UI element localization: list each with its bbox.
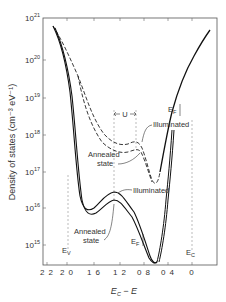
svg-text:0 4: 0 4 xyxy=(161,268,175,277)
svg-text:0 8: 0 8 xyxy=(137,268,151,277)
density-of-states-chart: 1021 1020 1019 1018 1017 1016 1015 Densi… xyxy=(0,0,226,302)
ev-label: EV xyxy=(62,246,71,256)
annealed-upper-label-1: Annealed xyxy=(88,150,120,159)
svg-text:1021: 1021 xyxy=(25,12,40,23)
ef-lower-label: EF xyxy=(131,237,140,247)
ec-label: EC xyxy=(186,248,195,258)
y-axis-title: Density of states (cm⁻³ eV⁻¹) xyxy=(7,84,17,201)
svg-text:1015: 1015 xyxy=(25,239,40,250)
illuminated-lower-leader xyxy=(118,190,132,193)
axis-ticks xyxy=(43,18,192,265)
y-tick-labels: 1021 1020 1019 1018 1017 1016 1015 xyxy=(25,12,40,250)
svg-text:2 0: 2 0 xyxy=(60,268,74,277)
u-label: U xyxy=(122,110,127,119)
svg-text:1 6: 1 6 xyxy=(87,268,101,277)
annealed-upper-label-2: state xyxy=(97,159,113,168)
x-tick-labels: 2 2 2 0 1 6 1 2 0 8 0 4 0 xyxy=(40,268,195,277)
svg-text:1019: 1019 xyxy=(25,92,40,103)
ef-upper-label: EF xyxy=(168,105,177,115)
svg-text:0: 0 xyxy=(189,268,194,277)
x-axis-title: EC − E xyxy=(111,286,138,297)
annealed-upper-leader xyxy=(118,153,140,164)
illuminated-upper-label: Illuminated xyxy=(153,120,189,129)
curve-annealed-dashed xyxy=(78,76,152,182)
annealed-lower-label-1: Annealed xyxy=(74,227,106,236)
curve-rising-branch xyxy=(160,30,210,172)
svg-text:1017: 1017 xyxy=(25,166,40,177)
svg-text:1 2: 1 2 xyxy=(113,268,127,277)
svg-text:1016: 1016 xyxy=(25,202,40,213)
svg-text:1018: 1018 xyxy=(25,129,40,140)
annealed-lower-label-2: state xyxy=(83,236,99,245)
plot-frame xyxy=(43,18,217,265)
svg-text:1020: 1020 xyxy=(25,54,40,65)
svg-text:2 2: 2 2 xyxy=(40,268,54,277)
illuminated-lower-label: Illuminated xyxy=(133,186,169,195)
illuminated-upper-leader xyxy=(142,125,152,142)
